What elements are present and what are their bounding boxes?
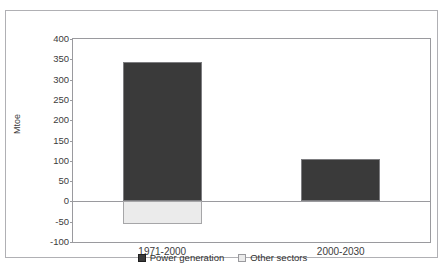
y-axis-tick-label: 250 (53, 95, 69, 105)
bar-power-generation (301, 159, 380, 202)
y-axis-tick-label: -100 (50, 237, 69, 247)
legend-item: Power generation (138, 252, 224, 263)
y-axis-tick-label: 150 (53, 136, 69, 146)
legend-swatch-icon (138, 254, 146, 262)
y-axis-tick-label: 400 (53, 34, 69, 44)
legend-label: Power generation (150, 252, 224, 263)
y-axis-tick-label: 100 (53, 156, 69, 166)
y-axis-tick-label: 300 (53, 75, 69, 85)
bar-power-generation (123, 62, 202, 201)
y-axis-tick-label: 200 (53, 115, 69, 125)
bar-group: 2000-2030 (252, 39, 431, 242)
y-axis-tick-label: 350 (53, 55, 69, 65)
y-axis-tick-label: -50 (55, 217, 69, 227)
bar-other-sectors (123, 201, 202, 223)
chart-legend: Power generationOther sectors (0, 252, 445, 263)
legend-label: Other sectors (250, 252, 307, 263)
chart-title (0, 0, 445, 5)
legend-swatch-icon (238, 254, 246, 262)
y-axis-tick-label: 50 (58, 176, 69, 186)
plot-area: 400350300250200150100500-50-100 1971-200… (72, 38, 431, 243)
y-axis-tick-mark (70, 242, 73, 243)
legend-item: Other sectors (238, 252, 307, 263)
bar-group: 1971-2000 (73, 39, 252, 242)
y-axis-label: Mtoe (12, 104, 22, 144)
y-axis-tick-label: 0 (64, 197, 69, 207)
chart-frame: Mtoe 400350300250200150100500-50-100 197… (5, 10, 438, 258)
chart-figure: Mtoe 400350300250200150100500-50-100 197… (0, 0, 445, 270)
